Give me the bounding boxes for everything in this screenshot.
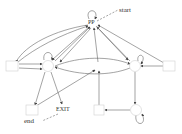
edge-rightcircle-leftcircle	[55, 67, 130, 74]
edge-pp-selfloop	[88, 11, 96, 19]
node-bottom-mid-box	[94, 105, 104, 115]
node-right-circle	[130, 61, 141, 72]
edge-leftbox-leftcircle-2	[19, 68, 42, 69]
edge-pp-leftcircle-2	[60, 28, 91, 62]
node-exit-label: EXIT	[56, 106, 70, 112]
node-pp-label: PP	[88, 19, 95, 25]
node-bottom-left-box	[26, 105, 38, 115]
edge-leftcircle-pp	[55, 27, 90, 61]
end-label: end	[24, 118, 34, 125]
node-left-box	[6, 61, 18, 71]
edge-rightbox-pp	[98, 25, 164, 63]
node-left-circle	[43, 61, 54, 72]
node-right-box	[163, 61, 175, 71]
edge-leftcircle-bottomleftbox	[35, 72, 45, 105]
edge-leftcircle-exit	[51, 72, 62, 104]
start-label: start	[119, 7, 131, 14]
edge-leftcircle-rightcircle	[55, 58, 130, 66]
edge-leftcircle-selfloop	[44, 53, 52, 61]
edge-bottomleftbox-center	[36, 70, 95, 106]
node-bottom-right-circle	[131, 105, 142, 116]
edge-center-pp	[94, 28, 98, 62]
edge-pp-rightcircle	[96, 26, 128, 60]
edge-leftbox-pp	[18, 26, 88, 62]
edge-exit-end	[42, 114, 58, 121]
edge-start-pp	[97, 10, 118, 21]
